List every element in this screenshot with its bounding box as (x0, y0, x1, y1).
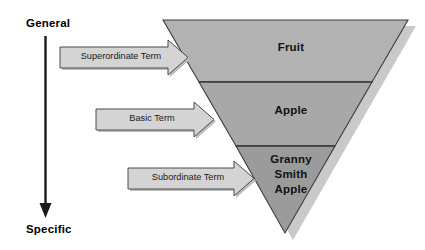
axis-label-specific: Specific (26, 223, 72, 235)
axis-label-general: General (26, 17, 70, 29)
diagram-graphics (0, 0, 425, 250)
banner-label-basic-term: Basic Term (96, 113, 208, 123)
tier-label-line: Smith (236, 167, 346, 182)
banner-label-subordinate-term: Subordinate Term (128, 172, 248, 182)
tier-label-line: Granny (236, 152, 346, 167)
banner-label-superordinate-term: Superordinate Term (60, 51, 182, 61)
tier-label-apple: Apple (236, 104, 346, 116)
tier-label-granny-smith-apple: Granny Smith Apple (236, 152, 346, 197)
general-specific-arrowhead-icon (40, 203, 52, 218)
tier-label-fruit: Fruit (236, 41, 346, 53)
diagram-canvas: General Specific Fruit Apple Granny Smit… (0, 0, 425, 250)
tier-label-line: Apple (236, 182, 346, 197)
